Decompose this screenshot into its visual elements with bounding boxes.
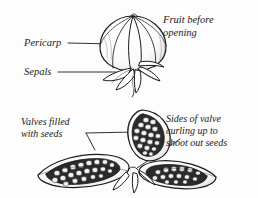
label-pericarp: Pericarp <box>24 37 61 50</box>
figure-drawing <box>0 0 258 198</box>
caption-fruit-before-opening: Fruit beforeopening <box>163 14 214 40</box>
opened-sepal-center <box>132 173 138 193</box>
pedicel <box>132 90 134 97</box>
label-sepals-text: Sepals <box>24 66 51 77</box>
caption-valves-filled-with-seeds: Valves filledwith seeds <box>21 116 70 140</box>
caption-fruit-before-line2: opening <box>163 27 214 40</box>
label-pericarp-text: Pericarp <box>24 37 61 48</box>
caption-sides-of-valve: Sides of valvecurling up toshoot out see… <box>166 113 227 150</box>
caption-sides-line1: Sides of valve <box>166 113 227 125</box>
sepal-center-lower <box>134 70 141 93</box>
valve-right <box>139 161 216 189</box>
caption-valves-line2: with seeds <box>21 128 70 140</box>
label-sepals: Sepals <box>24 66 51 79</box>
closed-fruit-drawing <box>58 14 166 97</box>
valve-upright <box>128 110 170 161</box>
caption-valves-line1: Valves filled <box>21 116 70 128</box>
caption-fruit-before-line1: Fruit before <box>163 14 214 27</box>
valve-left <box>38 154 129 187</box>
botanical-figure: Pericarp Sepals Fruit beforeopening Valv… <box>0 0 258 198</box>
caption-sides-line2: curling up to <box>166 125 227 137</box>
caption-sides-line3: shoot out seeds <box>166 137 227 149</box>
